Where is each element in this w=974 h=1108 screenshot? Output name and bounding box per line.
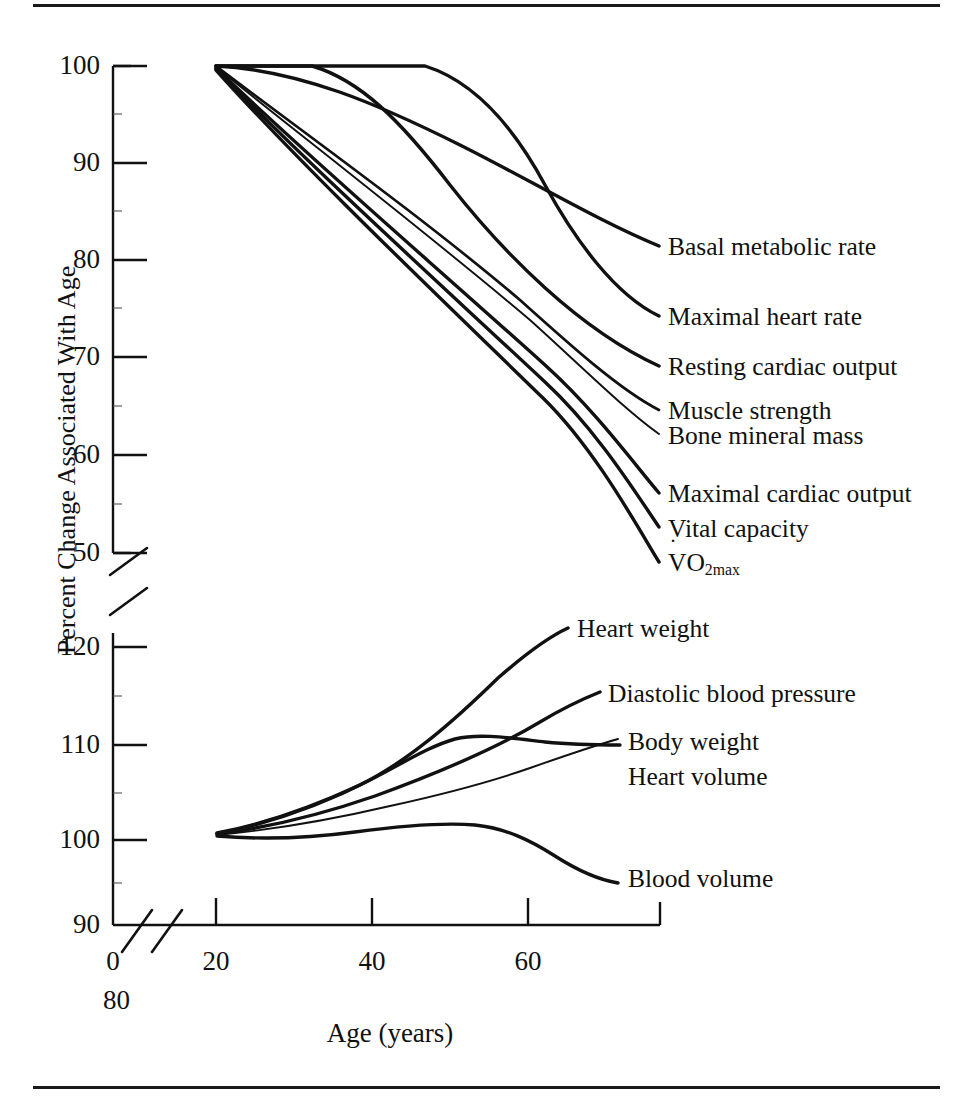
lower-series-group [217, 628, 620, 883]
y-tick-label-100: 100 [10, 826, 100, 853]
page-number: 80 [103, 985, 130, 1016]
series-label-basal-metabolic-rate: Basal metabolic rate [668, 234, 876, 261]
series-label-vo2max: VO2max [668, 550, 740, 579]
figure-page: 100 90 80 70 60 50 120 110 100 90 0 20 4… [0, 0, 974, 1108]
series-line-muscle-strength [216, 66, 659, 410]
series-label-vital-capacity: Vital capacity [668, 516, 809, 543]
y-axis-break [110, 548, 147, 615]
upper-series-group [216, 66, 659, 562]
y-tick-label-90: 90 [28, 911, 100, 938]
series-label-resting-cardiac-output: Resting cardiac output [668, 354, 897, 381]
x-tick-label-40: 40 [347, 948, 397, 975]
series-line-body-weight [217, 736, 620, 834]
series-label-maximal-heart-rate: Maximal heart rate [668, 304, 862, 331]
y-tick-label-100: 100 [28, 52, 100, 79]
lower-y-ticks-major [113, 647, 147, 840]
x-axis [113, 902, 660, 952]
series-line-vo2max [216, 70, 659, 562]
upper-y-axis [113, 66, 131, 553]
x-tick-label-0: 0 [88, 948, 138, 975]
y-tick-label-110: 110 [10, 731, 100, 758]
upper-y-ticks-major [113, 66, 147, 553]
upper-y-ticks-minor [113, 114, 122, 504]
series-label-heart-volume: Heart volume [628, 764, 768, 791]
x-ticks [216, 898, 528, 925]
vo2max-base: VO [668, 548, 705, 577]
x-tick-label-20: 20 [191, 948, 241, 975]
series-label-maximal-cardiac-output: Maximal cardiac output [668, 481, 912, 508]
series-line-maximal-heart-rate [216, 66, 659, 316]
series-line-heart-weight [217, 628, 568, 833]
series-label-body-weight: Body weight [628, 729, 759, 756]
series-label-bone-mineral-mass: Bone mineral mass [668, 423, 863, 450]
x-axis-title: Age (years) [230, 1018, 550, 1049]
series-label-diastolic-blood-pressure: Diastolic blood pressure [608, 681, 856, 708]
series-line-bone-mineral-mass [216, 67, 659, 434]
x-tick-label-60: 60 [503, 948, 553, 975]
series-line-basal-metabolic-rate [216, 66, 659, 246]
series-label-heart-weight: Heart weight [577, 616, 709, 643]
series-line-blood-volume [217, 824, 618, 883]
vo2max-subscript: 2max [705, 561, 740, 578]
y-axis-title: Percent Change Associated With Age [52, 245, 82, 675]
y-tick-label-90: 90 [28, 149, 100, 176]
chart-canvas [0, 0, 974, 1108]
series-label-blood-volume: Blood volume [628, 866, 773, 893]
lower-y-ticks-minor [113, 696, 122, 883]
